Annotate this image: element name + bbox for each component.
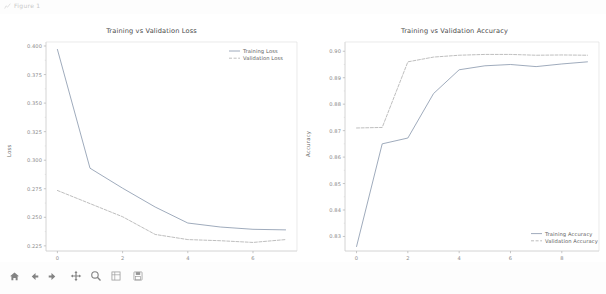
loss-xtick-label: 6 [243,255,263,261]
home-button[interactable] [6,268,22,284]
accuracy-xtick-label: 2 [398,255,418,261]
forward-button[interactable] [44,268,60,284]
loss-ytick-label: 0.300 [14,157,42,163]
accuracy-xtick-label: 0 [347,255,367,261]
save-button[interactable] [130,268,146,284]
loss-ytick-label: 0.225 [14,243,42,249]
loss-ytick-label: 0.350 [14,100,42,106]
accuracy-plot-area [303,14,606,262]
accuracy-chart[interactable]: Training vs Validation Accuracy 0.830.84… [303,14,606,262]
navigation-toolbar [0,262,606,294]
accuracy-ytick-label: 0.89 [313,75,341,81]
accuracy-series-line [357,62,588,247]
accuracy-xtick-label: 4 [449,255,469,261]
accuracy-ytick-label: 0.88 [313,101,341,107]
accuracy-ytick-label: 0.87 [313,128,341,134]
loss-legend-label: Training Loss [243,48,278,54]
accuracy-xtick-label: 8 [552,255,572,261]
loss-ytick-label: 0.325 [14,129,42,135]
accuracy-yaxis-label: Accuracy [305,130,311,156]
loss-yaxis-label: Loss [6,144,12,157]
loss-xtick-label: 2 [113,255,133,261]
loss-legend-label: Validation Loss [243,55,283,61]
accuracy-legend-label: Training Accuracy [545,231,593,237]
subplots-button[interactable] [108,268,124,284]
figure-canvas[interactable]: Training vs Validation Loss 0.2250.2500.… [0,14,606,262]
loss-ytick-label: 0.275 [14,186,42,192]
window-title: Figure 1 [14,2,40,9]
accuracy-ytick-label: 0.86 [313,154,341,160]
back-button[interactable] [26,268,42,284]
zoom-button[interactable] [88,268,104,284]
figure-icon [4,3,11,10]
figure-window: Figure 1 Training vs Validation Loss 0.2… [0,0,606,294]
accuracy-ytick-label: 0.83 [313,233,341,239]
accuracy-xtick-label: 6 [500,255,520,261]
loss-series-line [57,49,285,229]
accuracy-ytick-label: 0.90 [313,48,341,54]
accuracy-series-line [357,54,588,128]
accuracy-ytick-label: 0.84 [313,207,341,213]
accuracy-ytick-label: 0.85 [313,181,341,187]
loss-chart[interactable]: Training vs Validation Loss 0.2250.2500.… [0,14,303,262]
pan-button[interactable] [68,268,84,284]
loss-xtick-label: 4 [178,255,198,261]
loss-ytick-label: 0.250 [14,214,42,220]
loss-series-line [57,190,285,242]
window-titlebar: Figure 1 [0,0,606,14]
accuracy-legend-label: Validation Accuracy [545,238,598,244]
loss-ytick-label: 0.400 [14,43,42,49]
loss-xtick-label: 0 [47,255,67,261]
loss-ytick-label: 0.375 [14,72,42,78]
